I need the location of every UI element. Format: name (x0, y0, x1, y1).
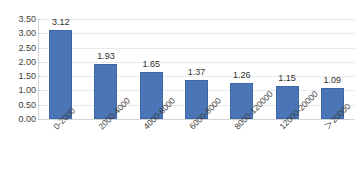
bar-group: 3.12 (49, 19, 72, 119)
bar-group: 1.65 (140, 19, 163, 119)
y-axis-tick-label: 0.00 (2, 115, 36, 124)
y-axis-labels: 0.000.501.001.502.002.503.003.50 (0, 0, 36, 185)
bar-value-label: 1.93 (97, 52, 115, 61)
y-axis-tick-mark (38, 119, 41, 120)
y-axis-tick-mark (38, 90, 41, 91)
x-axis-labels: 0-20002000-40004000-60006000-80008000-12… (38, 119, 355, 185)
y-axis-tick-mark (38, 48, 41, 49)
y-axis-tick-mark (38, 62, 41, 63)
y-axis-tick-mark (38, 19, 41, 20)
bar-value-label: 1.37 (188, 68, 206, 77)
y-axis-tick-mark (38, 76, 41, 77)
bar-value-label: 1.15 (278, 74, 296, 83)
y-axis-tick-mark (38, 105, 41, 106)
bar-value-label: 1.65 (142, 60, 160, 69)
y-axis-tick-label: 2.00 (2, 57, 36, 66)
bar-group: 1.15 (276, 19, 299, 119)
bar-chart: 0.000.501.001.502.002.503.003.50 3.121.9… (0, 0, 359, 185)
bar-value-label: 3.12 (52, 18, 70, 27)
y-axis-tick-label: 3.00 (2, 29, 36, 38)
y-axis-tick-label: 1.00 (2, 86, 36, 95)
bar-group: 1.09 (321, 19, 344, 119)
bar-value-label: 1.26 (233, 71, 251, 80)
y-axis-tick-mark (38, 33, 41, 34)
y-axis-tick-label: 1.50 (2, 72, 36, 81)
bar-group: 1.26 (230, 19, 253, 119)
y-axis-tick-label: 2.50 (2, 43, 36, 52)
y-axis-tick-label: 0.50 (2, 100, 36, 109)
y-axis-tick-label: 3.50 (2, 15, 36, 24)
bar-group: 1.37 (185, 19, 208, 119)
bar-group: 1.93 (94, 19, 117, 119)
bar-value-label: 1.09 (324, 76, 342, 85)
